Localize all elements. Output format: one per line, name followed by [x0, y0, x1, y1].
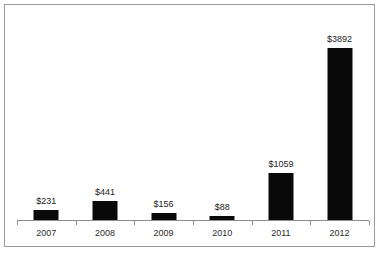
- bar-group[interactable]: $231: [17, 30, 76, 220]
- chart-frame: $231 $441 $156 $88 $1059 $3892 2007 2008…: [4, 4, 375, 247]
- category-label-2010: 2010: [193, 227, 252, 239]
- axis-tick: [193, 221, 194, 225]
- bar-group[interactable]: $441: [76, 30, 135, 220]
- bar-rect[interactable]: [34, 210, 59, 220]
- bar-rect[interactable]: [92, 201, 117, 221]
- bar-rect[interactable]: [151, 213, 176, 220]
- category-label-2008: 2008: [76, 227, 135, 239]
- category-label-2009: 2009: [134, 227, 193, 239]
- axis-tick: [76, 221, 77, 225]
- category-label-2007: 2007: [17, 227, 76, 239]
- bar-value-label: $1059: [268, 159, 293, 169]
- plot-area: $231 $441 $156 $88 $1059 $3892 2007 2008…: [5, 5, 376, 248]
- bar-value-label: $3892: [327, 34, 352, 44]
- axis-tick: [134, 221, 135, 225]
- category-label-2012: 2012: [310, 227, 369, 239]
- bar-value-label: $88: [215, 202, 230, 212]
- bar-value-label: $231: [36, 196, 56, 206]
- bar-value-label: $156: [154, 199, 174, 209]
- bar-rect[interactable]: [268, 173, 293, 220]
- bar-group[interactable]: $1059: [252, 30, 311, 220]
- axis-tick: [252, 221, 253, 225]
- category-label-2011: 2011: [252, 227, 311, 239]
- bar-group[interactable]: $88: [193, 30, 252, 220]
- bar-rect[interactable]: [327, 48, 352, 220]
- axis-tick: [17, 221, 18, 225]
- bar-group[interactable]: $3892: [310, 30, 369, 220]
- bar-group[interactable]: $156: [134, 30, 193, 220]
- axis-tick: [369, 221, 370, 225]
- bar-value-label: $441: [95, 187, 115, 197]
- bar-rect[interactable]: [210, 216, 235, 220]
- axis-tick: [310, 221, 311, 225]
